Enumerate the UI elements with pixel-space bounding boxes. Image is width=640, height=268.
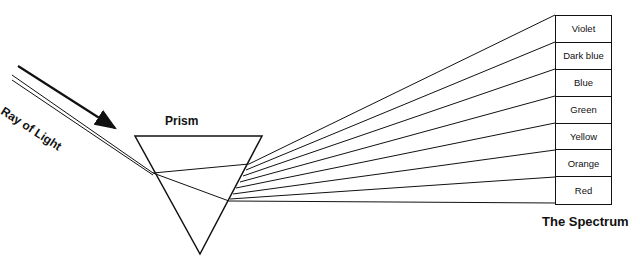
direction-arrow <box>18 66 115 128</box>
prism-label: Prism <box>165 114 198 128</box>
spectrum-violet: Violet <box>556 16 611 43</box>
spectrum-yellow: Yellow <box>556 124 611 151</box>
spectrum-label: The Spectrum <box>542 214 629 229</box>
spectrum-orange: Orange <box>556 150 611 177</box>
prism <box>135 136 262 254</box>
spectrum-blue: Blue <box>556 70 611 97</box>
spectrum-box: Violet Dark blue Blue Green Yellow Orang… <box>555 15 612 205</box>
spectrum-green: Green <box>556 97 611 124</box>
spectrum-dark-blue: Dark blue <box>556 43 611 70</box>
spectrum-red: Red <box>556 177 611 204</box>
